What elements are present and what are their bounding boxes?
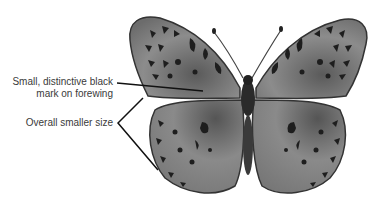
right-forewing — [256, 19, 367, 98]
butterfly-abdomen — [243, 115, 253, 175]
butterfly-illustration — [0, 0, 377, 206]
butterfly-thorax — [241, 80, 255, 116]
right-hindwing — [252, 100, 345, 193]
